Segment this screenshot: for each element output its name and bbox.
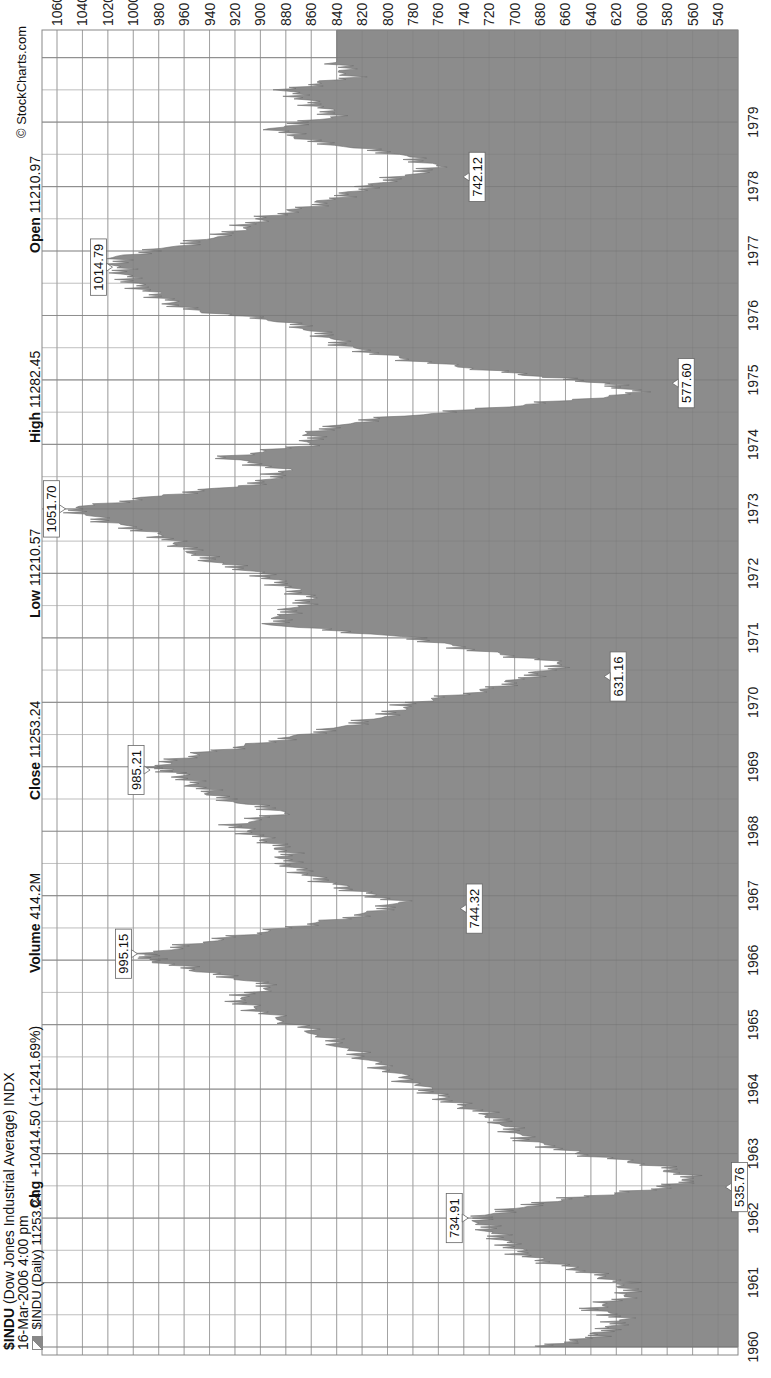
stat-change: Chg +10414.50 (+1241.69%): [28, 1026, 43, 1208]
stat-open: Open 11210.97: [28, 156, 43, 253]
svg-text:742.12: 742.12: [470, 157, 485, 197]
stat-high: High 11282.45: [28, 351, 43, 443]
copyright: © StockCharts.com: [14, 26, 29, 138]
svg-text:577.60: 577.60: [679, 363, 694, 403]
price-tick-label: 1000: [125, 0, 141, 26]
year-tick-label: 1960: [745, 1331, 761, 1362]
svg-text:1051.70: 1051.70: [44, 485, 59, 532]
stat-low: Low 11210.57: [28, 529, 43, 618]
price-tick-label: 1020: [100, 0, 116, 26]
price-tick-label: 880: [278, 2, 294, 26]
price-area-chart: 1060104010201000980960940920900880860840…: [0, 0, 771, 1378]
svg-text:995.15: 995.15: [116, 934, 131, 974]
price-tick-label: 920: [227, 2, 243, 26]
year-tick-label: 1973: [745, 493, 761, 524]
stat-volume: Volume 414.2M: [28, 873, 43, 973]
price-tick-label: 960: [176, 2, 192, 26]
price-tick-label: 1040: [74, 0, 90, 26]
price-tick-label: 940: [202, 2, 218, 26]
price-tick-label: 580: [659, 2, 675, 26]
price-tick-label: 540: [710, 2, 726, 26]
year-tick-label: 1975: [745, 364, 761, 395]
svg-text:985.21: 985.21: [129, 750, 144, 790]
svg-text:744.32: 744.32: [467, 889, 482, 929]
year-tick-label: 1964: [745, 1073, 761, 1104]
year-tick-label: 1977: [745, 235, 761, 266]
svg-text:631.16: 631.16: [611, 657, 626, 697]
year-tick-label: 1974: [745, 429, 761, 460]
price-tick-label: 600: [634, 2, 650, 26]
year-tick-label: 1965: [745, 1009, 761, 1040]
price-tick-label: 660: [557, 2, 573, 26]
svg-text:1014.79: 1014.79: [91, 244, 106, 291]
price-tick-label: 860: [303, 2, 319, 26]
year-tick-label: 1961: [745, 1267, 761, 1298]
year-tick-label: 1966: [745, 944, 761, 975]
price-tick-label: 620: [608, 2, 624, 26]
area-legend-icon: [32, 1336, 43, 1350]
year-tick-label: 1969: [745, 751, 761, 782]
legend-label: $INDU (Daily) 11253.24: [29, 1192, 44, 1329]
price-tick-label: 1060: [49, 0, 65, 26]
price-tick-label: 820: [354, 2, 370, 26]
svg-text:734.91: 734.91: [447, 1198, 462, 1238]
price-tick-label: 900: [252, 2, 268, 26]
price-tick-label: 740: [456, 2, 472, 26]
price-tick-label: 760: [430, 2, 446, 26]
stat-close: Close 11253.24: [28, 701, 43, 800]
rotated-chart-stage: 1060104010201000980960940920900880860840…: [0, 0, 771, 1378]
svg-text:535.76: 535.76: [732, 1167, 747, 1207]
legend: $INDU (Daily) 11253.24: [29, 1192, 44, 1350]
price-tick-label: 780: [405, 2, 421, 26]
year-tick-label: 1979: [745, 106, 761, 137]
year-tick-label: 1968: [745, 815, 761, 846]
year-tick-label: 1978: [745, 171, 761, 202]
price-tick-label: 680: [532, 2, 548, 26]
price-tick-label: 980: [151, 2, 167, 26]
price-tick-label: 720: [481, 2, 497, 26]
price-tick-label: 560: [685, 2, 701, 26]
year-tick-label: 1967: [745, 880, 761, 911]
year-tick-label: 1972: [745, 558, 761, 589]
price-tick-label: 700: [507, 2, 523, 26]
year-tick-label: 1971: [745, 622, 761, 653]
price-tick-label: 640: [583, 2, 599, 26]
year-tick-label: 1976: [745, 300, 761, 331]
price-tick-label: 800: [380, 2, 396, 26]
year-tick-label: 1970: [745, 687, 761, 718]
price-tick-label: 840: [329, 2, 345, 26]
